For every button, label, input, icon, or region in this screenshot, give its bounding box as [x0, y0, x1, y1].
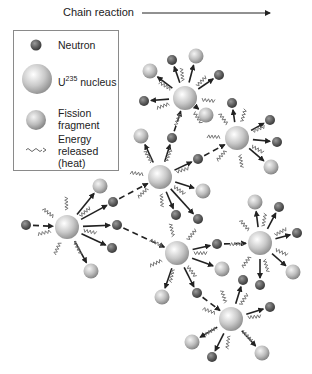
- legend-nucleus-label: U235 nucleus: [58, 73, 116, 88]
- legend-energy-label: Energy released (heat): [58, 133, 98, 169]
- fission-fragment: [134, 129, 149, 144]
- neutron: [227, 98, 237, 108]
- u235-nucleus: [55, 215, 79, 239]
- nucleus-legend-icon: [22, 64, 52, 94]
- u235-nucleus: [173, 86, 197, 110]
- neutron: [214, 70, 224, 80]
- neutron: [265, 115, 275, 125]
- fission-fragment: [93, 179, 108, 194]
- fission-fragment: [84, 264, 99, 279]
- neutron: [292, 228, 302, 238]
- neutron: [108, 197, 118, 207]
- legend-fragment-label: Fission fragment: [58, 107, 99, 131]
- fission-fragment: [286, 265, 301, 280]
- energy-line-1: Energy: [58, 133, 98, 145]
- fission-fragment: [189, 49, 204, 64]
- fragment-line-1: Fission: [58, 107, 99, 119]
- neutron: [167, 55, 177, 65]
- fission-fragment: [155, 290, 170, 305]
- u235-nucleus: [165, 241, 189, 265]
- neutron: [265, 302, 275, 312]
- neutron: [193, 214, 203, 224]
- fragment-line-2: fragment: [58, 119, 99, 131]
- energy-line-3: (heat): [58, 157, 98, 169]
- neutron: [167, 133, 177, 143]
- fission-fragment: [196, 184, 211, 199]
- energy-line-2: released: [58, 145, 98, 157]
- nucleus-superscript: 235: [66, 75, 78, 82]
- neutron: [238, 275, 248, 285]
- neutron: [274, 202, 284, 212]
- u235-nucleus: [248, 231, 272, 255]
- neutron: [207, 352, 217, 362]
- legend-neutron-label: Neutron: [58, 39, 95, 51]
- fission-fragment: [199, 108, 214, 123]
- neutron: [192, 288, 202, 298]
- u235-nucleus: [225, 126, 249, 150]
- neutron: [139, 96, 149, 106]
- fragment-legend-icon: [26, 110, 46, 130]
- legend: Neutron U235 nucleus Fission fragment En…: [13, 30, 119, 171]
- nucleus-prefix: U: [58, 76, 66, 88]
- neutron: [255, 280, 265, 290]
- u235-nucleus: [219, 307, 243, 331]
- fission-fragment: [248, 195, 263, 210]
- fission-fragment: [185, 335, 200, 350]
- heat-legend-icon: [26, 149, 42, 152]
- neutron: [107, 243, 117, 253]
- fission-fragment: [255, 346, 270, 361]
- fission-fragment: [264, 160, 279, 175]
- neutron: [171, 210, 181, 220]
- fission-fragment: [215, 262, 230, 277]
- nucleus-suffix: nucleus: [77, 76, 116, 88]
- neutron: [193, 154, 203, 164]
- u235-nucleus: [148, 165, 172, 189]
- neutron-legend-icon: [31, 40, 42, 51]
- fission-fragment: [143, 64, 158, 79]
- neutron: [272, 137, 282, 147]
- neutron: [212, 239, 222, 249]
- neutron: [21, 220, 31, 230]
- neutron: [112, 220, 122, 230]
